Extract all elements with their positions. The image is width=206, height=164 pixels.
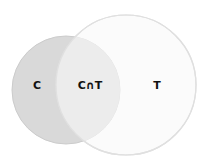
set-t-label: T xyxy=(153,79,161,92)
set-c-label: C xyxy=(33,79,41,92)
venn-diagram: C C∩T T xyxy=(0,0,206,164)
intersection-label: C∩T xyxy=(78,79,103,92)
